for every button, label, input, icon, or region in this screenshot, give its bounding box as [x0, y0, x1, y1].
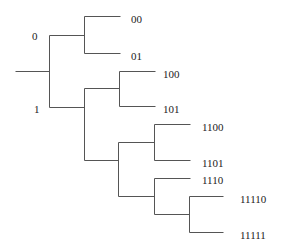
tree-edges	[0, 0, 286, 250]
code-tree-diagram: 0 1 00 01 100 101 1100 1101 1110 11110 1…	[0, 0, 286, 250]
